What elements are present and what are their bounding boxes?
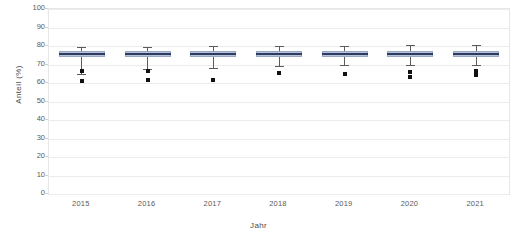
y-tick-mark <box>44 8 48 9</box>
whisker-lower <box>213 57 214 68</box>
y-tick-label: 0 <box>21 189 45 197</box>
median-line <box>322 53 368 55</box>
whisker-cap-upper <box>275 46 284 47</box>
outlier-point <box>146 78 150 82</box>
gridline <box>49 139 509 140</box>
gridline <box>49 157 509 158</box>
y-tick-mark <box>44 64 48 65</box>
gridline <box>49 194 509 195</box>
y-tick-label: 100 <box>21 4 45 12</box>
x-tick-label-2017: 2017 <box>182 199 242 208</box>
gridline <box>49 28 509 29</box>
gridline <box>49 120 509 121</box>
whisker-cap-lower <box>406 65 415 66</box>
whisker-lower <box>279 57 280 66</box>
y-tick-mark <box>44 101 48 102</box>
median-line <box>387 53 433 55</box>
whisker-cap-upper <box>472 45 481 46</box>
outlier-point <box>80 69 84 73</box>
gridline <box>49 102 509 103</box>
whisker-cap-upper <box>340 46 349 47</box>
y-tick-mark <box>44 175 48 176</box>
y-tick-mark <box>44 82 48 83</box>
median-line <box>190 53 236 55</box>
outlier-point <box>408 75 412 79</box>
x-tick-label-2018: 2018 <box>248 199 308 208</box>
whisker-cap-lower <box>209 68 218 69</box>
x-axis-title: Jahr <box>0 221 517 230</box>
whisker-cap-lower <box>340 65 349 66</box>
x-tick-label-2019: 2019 <box>314 199 374 208</box>
whisker-cap-lower <box>472 65 481 66</box>
y-tick-mark <box>44 156 48 157</box>
median-line <box>453 53 499 55</box>
y-tick-mark <box>44 119 48 120</box>
y-tick-label: 90 <box>21 23 45 31</box>
whisker-lower <box>344 57 345 66</box>
y-tick-label: 60 <box>21 78 45 86</box>
median-line <box>125 53 171 55</box>
outlier-point <box>343 72 347 76</box>
outlier-point <box>474 73 478 77</box>
outlier-point <box>80 79 84 83</box>
whisker-cap-lower <box>275 66 284 67</box>
median-line <box>59 53 105 55</box>
whisker-lower <box>410 57 411 65</box>
y-tick-mark <box>44 45 48 46</box>
outlier-point <box>408 70 412 74</box>
y-tick-label: 50 <box>21 97 45 105</box>
y-tick-label: 10 <box>21 171 45 179</box>
median-line <box>256 53 302 55</box>
outlier-point <box>211 78 215 82</box>
y-tick-mark <box>44 138 48 139</box>
y-tick-label: 40 <box>21 115 45 123</box>
boxplot-chart: Anteil (%) 0102030405060708090100 201520… <box>0 0 517 238</box>
plot-area <box>48 8 510 195</box>
y-tick-mark <box>44 193 48 194</box>
gridline <box>49 83 509 84</box>
x-tick-label-2021: 2021 <box>445 199 505 208</box>
gridline <box>49 9 509 10</box>
whisker-cap-upper <box>77 47 86 48</box>
x-tick-label-2015: 2015 <box>51 199 111 208</box>
whisker-cap-upper <box>209 46 218 47</box>
whisker-cap-upper <box>143 47 152 48</box>
y-tick-label: 80 <box>21 41 45 49</box>
y-tick-mark <box>44 27 48 28</box>
x-tick-label-2020: 2020 <box>379 199 439 208</box>
whisker-cap-upper <box>406 45 415 46</box>
outlier-point <box>146 69 150 73</box>
y-tick-label: 70 <box>21 60 45 68</box>
whisker-lower <box>476 57 477 65</box>
y-tick-label: 30 <box>21 134 45 142</box>
outlier-point <box>277 71 281 75</box>
x-tick-label-2016: 2016 <box>117 199 177 208</box>
gridline <box>49 176 509 177</box>
whisker-lower <box>147 57 148 69</box>
whisker-cap-lower <box>77 74 86 75</box>
y-tick-label: 20 <box>21 152 45 160</box>
